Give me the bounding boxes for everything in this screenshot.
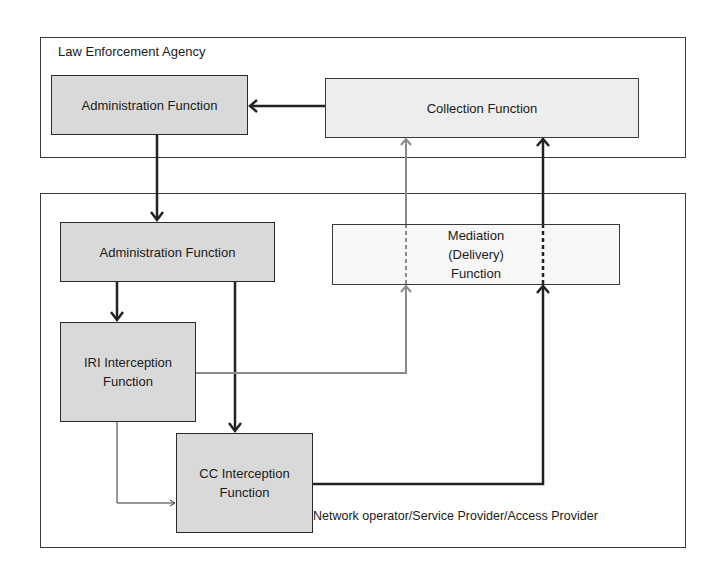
mediation-label: Mediation (Delivery) Function xyxy=(448,226,504,283)
cc-label: CC Interception Function xyxy=(199,464,289,502)
cc-interception-function[interactable]: CC Interception Function xyxy=(176,433,313,533)
collection-label: Collection Function xyxy=(427,99,538,118)
mediation-delivery-function[interactable]: Mediation (Delivery) Function xyxy=(332,224,620,285)
network-administration-function[interactable]: Administration Function xyxy=(60,222,275,282)
iri-interception-function[interactable]: IRI Interception Function xyxy=(60,322,196,422)
iri-label: IRI Interception Function xyxy=(84,353,172,391)
lea-administration-function[interactable]: Administration Function xyxy=(51,75,248,135)
collection-function[interactable]: Collection Function xyxy=(325,78,639,138)
network-administration-label: Administration Function xyxy=(100,243,236,262)
lea-administration-label: Administration Function xyxy=(82,96,218,115)
lea-title: Law Enforcement Agency xyxy=(58,44,205,59)
network-title: Network operator/Service Provider/Access… xyxy=(313,509,598,523)
